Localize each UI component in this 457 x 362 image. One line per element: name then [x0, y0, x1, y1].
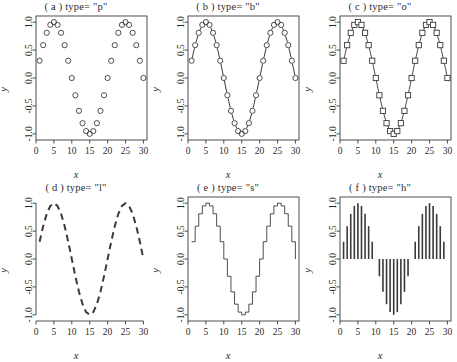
data-point-marker	[250, 108, 255, 113]
x-tick-label: 0	[186, 327, 191, 337]
y-axis-label-f: y	[302, 268, 313, 273]
data-point-marker	[200, 22, 205, 27]
y-tick-label: -0.5	[24, 279, 34, 294]
plot-canvas-f: 051015202530-1.0-0.50.00.51.0	[304, 181, 456, 362]
data-point-marker	[101, 93, 106, 98]
data-point-marker	[395, 129, 400, 134]
x-tick-label: 30	[443, 327, 453, 337]
x-tick-label: 15	[237, 327, 247, 337]
plot-panel-e: ( e ) type= "s"051015202530-1.0-0.50.00.…	[152, 181, 304, 362]
y-tick-label: -1.0	[24, 307, 34, 322]
x-tick-label: 15	[237, 146, 247, 156]
x-tick-label: 5	[356, 146, 361, 156]
plot-canvas-c: 051015202530-1.0-0.50.00.51.0	[304, 0, 456, 181]
y-tick-label: 1.0	[176, 16, 186, 28]
x-tick-label: 20	[255, 146, 265, 156]
y-axis-label-c: y	[302, 87, 313, 92]
data-point-marker	[55, 22, 60, 27]
plot-canvas-b: 051015202530-1.0-0.50.00.51.0	[152, 0, 304, 181]
data-point-marker	[430, 22, 435, 27]
x-tick-label: 25	[425, 327, 435, 337]
y-axis-label-b: y	[150, 87, 161, 92]
x-tick-label: 10	[371, 146, 381, 156]
y-tick-label: 1.0	[328, 197, 338, 209]
x-tick-label: 20	[103, 146, 113, 156]
x-tick-label: 25	[273, 146, 283, 156]
x-tick-label: 0	[34, 146, 39, 156]
data-point-marker	[141, 75, 146, 80]
plot-panel-a: ( a ) type= "p"051015202530-1.0-0.50.00.…	[0, 0, 152, 181]
y-tick-label: 0.0	[328, 253, 338, 265]
x-tick-label: 30	[139, 146, 149, 156]
data-point-marker	[232, 121, 237, 126]
x-tick-label: 10	[219, 146, 229, 156]
data-point-marker	[348, 30, 353, 35]
x-tick-label: 20	[407, 327, 417, 337]
x-tick-label: 25	[121, 327, 131, 337]
data-point-marker	[373, 75, 378, 80]
y-axis-label-a: y	[0, 87, 9, 92]
plot-canvas-d: 051015202530-1.0-0.50.00.51.0	[0, 181, 152, 362]
y-tick-label: 0.5	[24, 225, 34, 237]
x-tick-label: 20	[255, 327, 265, 337]
data-point-marker	[268, 30, 273, 35]
x-tick-label: 10	[67, 146, 77, 156]
data-point-marker	[203, 20, 208, 25]
x-axis-label-f: x	[304, 350, 456, 361]
data-point-marker	[58, 30, 63, 35]
data-point-marker	[377, 93, 382, 98]
y-tick-label: -1.0	[328, 307, 338, 322]
x-tick-label: 5	[204, 146, 209, 156]
x-tick-label: 20	[407, 146, 417, 156]
y-tick-label: 0.5	[328, 44, 338, 56]
data-point-marker	[37, 58, 42, 63]
data-point-marker	[44, 30, 49, 35]
data-series-b	[189, 20, 298, 137]
data-point-marker	[66, 58, 71, 63]
data-point-marker	[359, 22, 364, 27]
x-tick-label: 15	[389, 146, 399, 156]
data-point-marker	[370, 58, 375, 63]
data-point-marker	[126, 22, 131, 27]
data-point-marker	[257, 75, 262, 80]
data-point-marker	[210, 30, 215, 35]
data-point-marker	[73, 93, 78, 98]
data-point-marker	[109, 58, 114, 63]
y-tick-label: 1.0	[24, 197, 34, 209]
y-tick-label: -0.5	[328, 98, 338, 113]
x-tick-label: 30	[139, 327, 149, 337]
x-tick-label: 0	[34, 327, 39, 337]
axes-a: 051015202530-1.0-0.50.00.51.0	[24, 16, 148, 156]
plot-canvas-e: 051015202530-1.0-0.50.00.51.0	[152, 181, 304, 362]
y-axis-label-d: y	[0, 268, 9, 273]
y-tick-label: -0.5	[176, 98, 186, 113]
x-tick-label: 5	[356, 327, 361, 337]
data-point-marker	[116, 30, 121, 35]
axes-b: 051015202530-1.0-0.50.00.51.0	[176, 16, 300, 156]
x-axis-label-b: x	[152, 169, 304, 180]
data-point-marker	[84, 129, 89, 134]
data-point-marker	[51, 20, 56, 25]
data-point-marker	[105, 75, 110, 80]
y-tick-label: -0.5	[176, 279, 186, 294]
y-tick-label: -1.0	[328, 126, 338, 141]
data-series-e	[192, 203, 296, 315]
x-tick-label: 5	[52, 146, 57, 156]
data-point-marker	[261, 58, 266, 63]
y-tick-label: 0.5	[176, 225, 186, 237]
data-point-marker	[48, 22, 53, 27]
data-series-f	[344, 203, 448, 315]
x-tick-label: 25	[273, 327, 283, 337]
data-point-marker	[91, 129, 96, 134]
data-point-marker	[286, 43, 291, 48]
data-point-marker	[293, 75, 298, 80]
x-tick-label: 15	[389, 327, 399, 337]
plot-panel-c: ( c ) type= "o"051015202530-1.0-0.50.00.…	[304, 0, 456, 181]
x-axis-label-a: x	[0, 169, 152, 180]
y-tick-label: -1.0	[24, 126, 34, 141]
data-point-marker	[189, 58, 194, 63]
x-tick-label: 30	[291, 146, 301, 156]
x-tick-label: 30	[443, 146, 453, 156]
data-point-marker	[398, 121, 403, 126]
data-point-marker	[275, 20, 280, 25]
